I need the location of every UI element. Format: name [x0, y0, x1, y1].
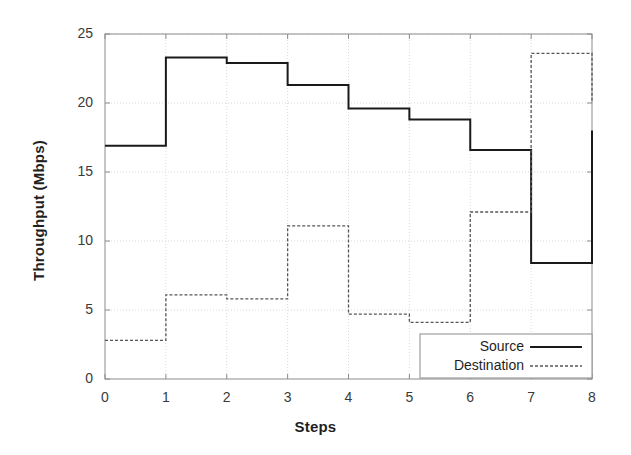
- y-tick-label: 0: [53, 370, 93, 386]
- y-tick-label: 10: [53, 232, 93, 248]
- x-tick-label: 5: [394, 389, 424, 405]
- y-tick-label: 15: [53, 163, 93, 179]
- x-tick-label: 8: [577, 389, 607, 405]
- y-tick-label: 25: [53, 25, 93, 41]
- legend-label-destination: Destination: [424, 357, 524, 373]
- x-tick-label: 2: [212, 389, 242, 405]
- x-tick-label: 6: [455, 389, 485, 405]
- legend-label-source: Source: [424, 338, 524, 354]
- throughput-steps-chart: Throughput (Mbps) Steps 0510152025 01234…: [0, 0, 631, 455]
- y-tick-label: 20: [53, 94, 93, 110]
- y-axis-title: Throughput (Mbps): [30, 111, 47, 311]
- x-axis-title: Steps: [0, 418, 631, 435]
- y-tick-label: 5: [53, 301, 93, 317]
- chart-canvas: [0, 0, 631, 455]
- x-tick-label: 0: [90, 389, 120, 405]
- x-tick-label: 1: [151, 389, 181, 405]
- x-tick-label: 4: [334, 389, 364, 405]
- x-tick-label: 7: [516, 389, 546, 405]
- x-tick-label: 3: [273, 389, 303, 405]
